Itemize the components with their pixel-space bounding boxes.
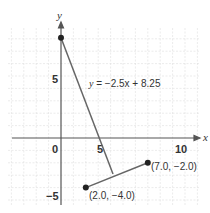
equation-label: y = −2.5x + 8.25 bbox=[88, 78, 161, 89]
x-axis-label: x bbox=[202, 131, 208, 143]
tick-label-y-neg5: −5 bbox=[46, 190, 59, 202]
tick-label-x10: 10 bbox=[175, 143, 187, 155]
point-b bbox=[145, 160, 151, 166]
y-intercept-point bbox=[58, 35, 64, 41]
line-equation bbox=[61, 38, 113, 174]
grid bbox=[8, 28, 200, 206]
point-b-label: (7.0, −2.0) bbox=[151, 161, 197, 172]
x-axis-arrow-icon bbox=[194, 136, 200, 141]
y-axis-arrow-icon bbox=[59, 22, 64, 28]
tick-label-0: 0 bbox=[52, 143, 58, 155]
tick-label-y5: 5 bbox=[52, 73, 58, 85]
point-a-label: (2.0, −4.0) bbox=[89, 190, 135, 201]
y-axis-label: y bbox=[56, 9, 62, 21]
coordinate-plane: x y 0 5 10 5 −5 y = −2.5x + 8.25 (2.0, −… bbox=[0, 0, 210, 213]
axes bbox=[12, 22, 200, 205]
point-a bbox=[83, 185, 89, 191]
